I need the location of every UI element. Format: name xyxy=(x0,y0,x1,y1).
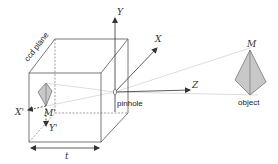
pinhole-camera-diagram: Y Z X pinhole ccd plane M object M' X' Y… xyxy=(0,0,278,164)
light-rays xyxy=(46,48,258,106)
z-axis-label: Z xyxy=(191,80,199,90)
object-point-m-label: M xyxy=(246,39,257,49)
x-axis-label: X xyxy=(154,34,162,44)
z-axis xyxy=(115,90,190,92)
pinhole-label: pinhole xyxy=(117,99,143,108)
y-prime-label: Y' xyxy=(49,123,57,133)
pinhole-icon xyxy=(114,89,117,95)
object-shape xyxy=(235,50,266,95)
y-axis-label: Y xyxy=(117,7,124,17)
object-label: object xyxy=(238,98,260,107)
focal-length-label: t xyxy=(65,151,69,161)
image-shape xyxy=(38,83,52,106)
ccd-plane-label: ccd plane xyxy=(22,30,51,63)
x-prime-label: X' xyxy=(14,107,24,117)
image-point-m-label: M' xyxy=(43,108,56,118)
